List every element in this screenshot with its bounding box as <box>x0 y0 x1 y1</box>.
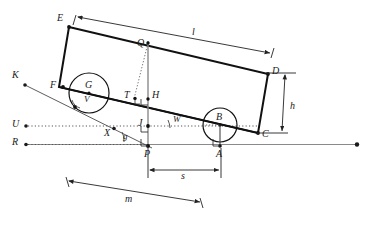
point-label-T: T <box>124 90 130 100</box>
point-label-H: H <box>152 90 159 100</box>
dimension-m <box>66 177 203 208</box>
point-label-B: B <box>216 112 222 122</box>
angle-arcs <box>72 100 170 142</box>
point-label-P: P <box>144 149 150 159</box>
point-label-J: J <box>138 118 142 128</box>
dimension-label-m: m <box>125 194 132 204</box>
dimension-label-s: s <box>181 171 185 181</box>
point-label-G: G <box>85 80 92 90</box>
angle-label-W: W <box>173 115 181 124</box>
point-label-D: D <box>272 66 279 76</box>
point-label-C: C <box>262 129 269 139</box>
angle-label-V: V <box>84 95 90 104</box>
point-label-U: U <box>12 119 19 129</box>
point-label-Q: Q <box>137 38 144 48</box>
dotted-line-QT <box>134 43 148 99</box>
point-label-A: A <box>216 149 222 159</box>
ground-line <box>24 142 359 146</box>
angle-label-g: g <box>123 132 128 141</box>
diagram-canvas: E F D C G B A P J H T Q K U R X V W g l … <box>0 0 372 226</box>
point-label-E: E <box>57 13 63 23</box>
point-label-F: F <box>50 80 56 90</box>
dimension-label-h: h <box>290 101 295 111</box>
diagram-svg <box>0 0 372 226</box>
point-markers <box>61 25 270 148</box>
point-label-X: X <box>104 128 110 138</box>
point-label-K: K <box>12 70 19 80</box>
point-label-R: R <box>12 137 18 147</box>
dimension-label-l: l <box>192 27 195 37</box>
